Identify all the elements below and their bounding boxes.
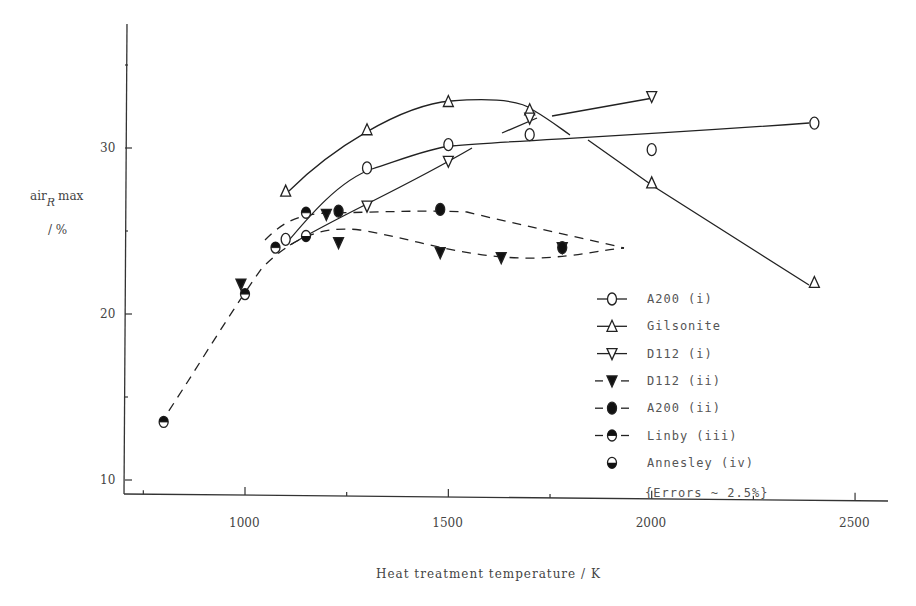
x-tick-label: 2500 (839, 516, 870, 530)
open-circle-marker (281, 233, 290, 245)
y-tick-label: 30 (100, 141, 115, 155)
open-circle-marker (647, 144, 656, 156)
half-filled-circle-top-marker (608, 430, 617, 441)
filled-circle-marker (558, 242, 567, 254)
chart: 102030 1000150020002500 airRmax / % Heat… (0, 0, 916, 606)
legend-item: D112 (ii) (595, 374, 721, 388)
filled-circle-marker (608, 402, 617, 414)
half-filled-circle-bottom-marker (302, 230, 311, 241)
y-tick-label: 20 (100, 307, 115, 321)
legend-item: D112 (i) (597, 347, 713, 361)
legend-label: Annesley (iv) (647, 456, 754, 470)
open-triangle-down-marker (647, 92, 657, 103)
legend-item: Linby (iii) (595, 429, 737, 443)
y-tick-label: 10 (100, 473, 115, 487)
curve-gilsonite-descend (588, 140, 809, 285)
x-tick-label: 1500 (432, 516, 463, 530)
legend-label: D112 (ii) (647, 374, 721, 388)
svg-text:airRmax: airRmax (30, 189, 84, 209)
legend-item: Annesley (iv) (608, 456, 754, 470)
filled-triangle-down-marker (334, 238, 344, 249)
half-filled-circle-bottom-marker (608, 457, 617, 468)
legend-item: A200 (ii) (595, 401, 721, 415)
curve-dashed-upper (265, 211, 624, 248)
curve-a200-i (285, 123, 809, 245)
curve-dashed-lower (160, 229, 624, 424)
x-axis: 1000150020002500 (124, 487, 888, 530)
x-tick-label: 1000 (229, 516, 260, 530)
x-axis-label: Heat treatment temperature / K (376, 567, 601, 581)
svg-text:/ %: / % (48, 223, 67, 237)
legend-label: Gilsonite (647, 319, 721, 333)
half-filled-circle-top-marker (302, 207, 311, 218)
half-filled-circle-top-marker (271, 242, 280, 253)
legend-label: A200 (i) (647, 292, 713, 306)
filled-triangle-down-marker (607, 376, 617, 387)
open-triangle-down-marker (362, 201, 372, 212)
open-triangle-up-marker (809, 276, 819, 287)
legend-item: Gilsonite (597, 319, 721, 333)
half-filled-circle-top-marker (159, 416, 168, 427)
x-tick-label: 2000 (636, 516, 667, 530)
open-circle-marker (444, 139, 453, 151)
open-circle-marker (525, 129, 534, 141)
y-axis-label: airRmax / % (30, 189, 84, 237)
filled-circle-marker (334, 205, 343, 217)
legend-label: Linby (iii) (647, 429, 737, 443)
y-axis: 102030 (100, 24, 132, 494)
filled-triangle-down-marker (496, 253, 506, 264)
open-circle-marker (810, 117, 819, 129)
errors-annotation: {Errors ~ 2.5%} (645, 486, 768, 500)
legend-label: D112 (i) (647, 347, 713, 361)
legend: A200 (i)GilsoniteD112 (i)D112 (ii)A200 (… (595, 292, 754, 470)
curve-d112-i (290, 148, 472, 245)
open-triangle-down-marker (443, 156, 453, 167)
curve-d112-i-upper (552, 98, 653, 116)
half-filled-circle-top-marker (241, 289, 250, 300)
filled-triangle-down-marker (435, 248, 445, 259)
filled-circle-marker (436, 203, 445, 215)
open-circle-marker (363, 162, 372, 174)
open-circle-marker (608, 293, 617, 305)
legend-item: A200 (i) (597, 292, 713, 306)
filled-triangle-down-marker (321, 209, 331, 220)
legend-label: A200 (ii) (647, 401, 721, 415)
